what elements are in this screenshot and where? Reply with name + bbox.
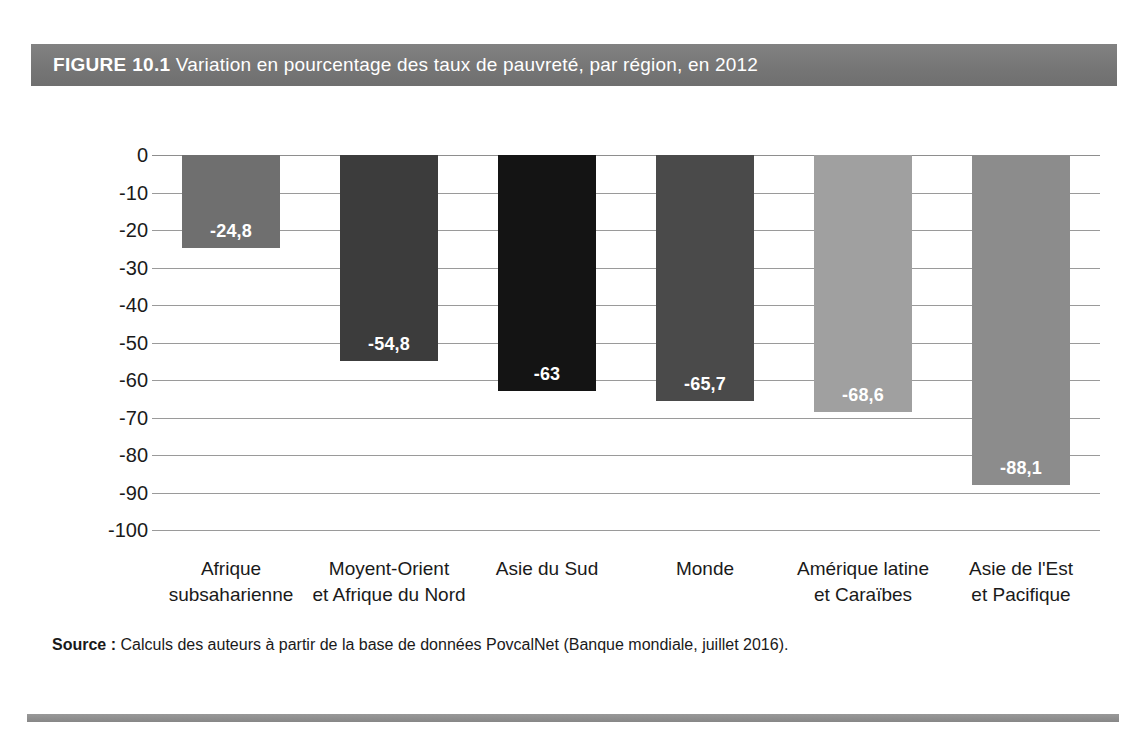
bar[interactable]: -65,7	[656, 155, 754, 401]
y-axis-tick-label: -40	[119, 294, 148, 317]
y-axis-tick-label: -80	[119, 444, 148, 467]
bar-value-label: -24,8	[182, 221, 280, 242]
chart-bars: -24,8-54,8-63-65,7-68,6-88,1	[152, 140, 1100, 552]
x-axis-category-label-line: et Pacifique	[924, 582, 1118, 608]
figure-bottom-rule	[27, 714, 1119, 722]
source-note: Source : Calculs des auteurs à partir de…	[52, 636, 788, 654]
bar-value-label: -65,7	[656, 374, 754, 395]
x-axis-category-labels: AfriquesubsaharienneMoyent-Orientet Afri…	[152, 556, 1100, 626]
x-axis-category-label-line: Asie de l'Est	[924, 556, 1118, 582]
y-axis-tick-label: -60	[119, 369, 148, 392]
bar-value-label: -63	[498, 364, 596, 385]
source-label: Source :	[52, 636, 116, 653]
bar[interactable]: -24,8	[182, 155, 280, 248]
y-axis-tick-label: -10	[119, 181, 148, 204]
bar[interactable]: -63	[498, 155, 596, 391]
x-axis-category-label-line: et Afrique du Nord	[292, 582, 486, 608]
y-axis-tick-label: -50	[119, 331, 148, 354]
y-axis-tick-label: -30	[119, 256, 148, 279]
bar-value-label: -54,8	[340, 334, 438, 355]
bar-value-label: -68,6	[814, 385, 912, 406]
x-axis-category-label: Asie de l'Estet Pacifique	[924, 556, 1118, 608]
bar-value-label: -88,1	[972, 458, 1070, 479]
y-axis-tick-label: -20	[119, 219, 148, 242]
figure-container: FIGURE 10.1 Variation en pourcentage des…	[0, 0, 1148, 755]
y-axis-tick-label: -100	[108, 519, 148, 542]
y-axis-tick-labels: 0-10-20-30-40-50-60-70-80-90-100	[58, 140, 148, 552]
y-axis-tick-label: -90	[119, 481, 148, 504]
source-text: Calculs des auteurs à partir de la base …	[120, 636, 788, 653]
bar[interactable]: -54,8	[340, 155, 438, 361]
bar[interactable]: -88,1	[972, 155, 1070, 485]
y-axis-tick-label: -70	[119, 406, 148, 429]
y-axis-tick-label: 0	[137, 144, 148, 167]
bar[interactable]: -68,6	[814, 155, 912, 412]
